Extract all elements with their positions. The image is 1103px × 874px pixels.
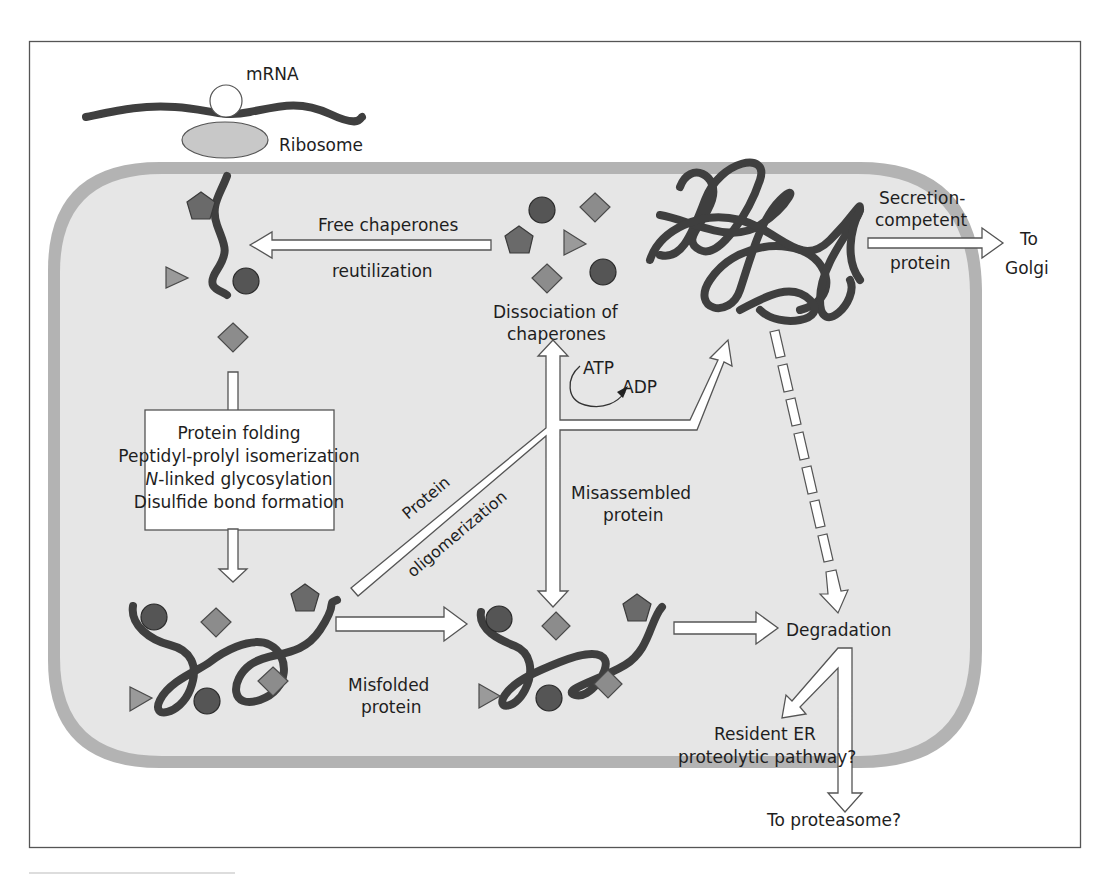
process-item-glycosylation: N-linked glycosylation [146,469,333,489]
adp-label: ADP [622,377,657,397]
circle-chaperone-icon [141,604,167,630]
circle-chaperone-icon [529,197,555,223]
down-arrow-to-process [228,372,238,411]
circle-chaperone-icon [486,606,512,632]
process-item-folding: Protein folding [177,423,300,443]
resident-er-label-line1: Resident ER [714,724,816,744]
dissociation-label-line2: chaperones [507,324,606,344]
glycosylation-italic-prefix: N [146,469,159,489]
process-item-disulfide: Disulfide bond formation [134,492,344,512]
process-item-isomerization: Peptidyl-prolyl isomerization [118,446,359,466]
ribosome-label: Ribosome [279,135,363,155]
reutilization-label: reutilization [332,261,433,281]
glycosylation-text: -linked glycosylation [158,469,332,489]
er-protein-folding-diagram: mRNA Ribosome Free chaperones reutilizat… [0,0,1103,874]
to-golgi-label-line1: To [1019,229,1038,249]
misfolded-label-line1: Misfolded [348,675,429,695]
mrna-bead-icon [210,85,242,117]
misfolded-label-line2: protein [361,697,421,717]
secretion-label-line1: Secretion- [879,188,965,208]
secretion-label-line2: competent [875,210,967,230]
dissociation-label-line1: Dissociation of [493,302,619,322]
ribosome-icon [182,122,268,158]
to-golgi-label-line2: Golgi [1005,258,1049,278]
free-chaperones-label: Free chaperones [318,215,459,235]
misassembled-label-line1: Misassembled [571,483,691,503]
circle-chaperone-icon [194,688,220,714]
circle-chaperone-icon [536,685,562,711]
secretion-label-line3: protein [890,253,950,273]
degradation-label: Degradation [786,620,892,640]
circle-chaperone-icon [590,259,616,285]
circle-chaperone-icon [233,268,259,294]
to-proteasome-label: To proteasome? [766,810,901,830]
misassembled-label-line2: protein [603,505,663,525]
atp-label: ATP [583,358,614,378]
resident-er-label-line2: proteolytic pathway? [678,747,856,767]
mrna-label: mRNA [246,64,299,84]
